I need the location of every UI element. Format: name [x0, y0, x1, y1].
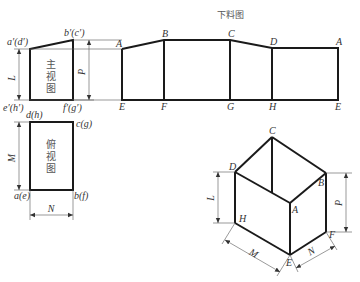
label-b-f: b(f): [74, 190, 89, 202]
iso-label-d: D: [228, 161, 237, 172]
dimension-m-label: M: [6, 153, 17, 163]
sheet-metal-drawing: L P 主 视 图 a′(d′) b′(c′) e′(h′) f′(g′) M …: [0, 0, 360, 282]
iso-label-f: F: [328, 229, 336, 240]
dimension-n-label: N: [47, 203, 56, 214]
isometric-view: L P M N C D B A H E F: [205, 125, 352, 276]
iso-label-e: E: [285, 257, 292, 268]
dev-label-d: D: [269, 36, 278, 47]
dev-label-g: G: [227, 101, 234, 112]
iso-dimension-m: M: [247, 246, 261, 261]
top-view-name-1: 俯: [46, 138, 56, 150]
label-d-h: d(h): [26, 109, 43, 121]
dev-label-h: H: [268, 101, 277, 112]
dev-label-c: C: [228, 28, 235, 39]
dev-label-b: B: [162, 28, 168, 39]
label-a-prime-d-prime: a′(d′): [7, 36, 29, 48]
development-pattern: 下料图 A B C D A E F G H E: [30, 9, 343, 112]
label-e-prime-h-prime: e′(h′): [3, 102, 24, 114]
top-view: M N 俯 视 图 d(h) c(g) a(e) b(f): [6, 109, 93, 220]
dev-label-f: F: [160, 101, 168, 112]
label-c-g: c(g): [76, 118, 93, 130]
front-view: L P 主 视 图 a′(d′) b′(c′) e′(h′) f′(g′): [3, 27, 122, 114]
iso-label-a: A: [291, 204, 299, 215]
development-title: 下料图: [217, 9, 244, 20]
label-b-prime-c-prime: b′(c′): [64, 27, 85, 39]
dev-label-a2: A: [335, 36, 343, 47]
iso-label-b: B: [318, 177, 324, 188]
iso-label-h: H: [238, 213, 247, 224]
dimension-p-label: P: [76, 69, 87, 76]
top-view-name-3: 图: [46, 163, 56, 174]
front-view-name-3: 图: [46, 83, 56, 94]
label-a-e: a(e): [14, 190, 31, 202]
dev-label-e2: E: [334, 101, 341, 112]
dev-label-e1: E: [118, 101, 125, 112]
top-view-name-2: 视: [46, 150, 56, 162]
iso-dimension-n: N: [305, 244, 318, 258]
label-f-prime-g-prime: f′(g′): [63, 102, 82, 114]
dimension-l-label: L: [6, 75, 17, 82]
iso-label-c: C: [269, 125, 276, 136]
iso-dimension-l: L: [205, 195, 216, 202]
dev-label-a1: A: [115, 38, 123, 49]
front-view-name-2: 视: [46, 70, 56, 82]
iso-dimension-p: P: [333, 200, 344, 207]
front-view-name-1: 主: [46, 59, 56, 70]
